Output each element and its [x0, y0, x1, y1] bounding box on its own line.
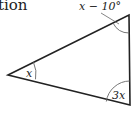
label-leader-line [101, 13, 119, 24]
angle-arc-left [34, 62, 37, 79]
angle-label-left: x [26, 67, 33, 80]
triangle-diagram: x − 10° x 3x [0, 0, 140, 125]
angle-label-top-right: x − 10° [79, 0, 121, 13]
angle-label-bottom-right: 3x [112, 89, 126, 102]
angle-arc-top-right [113, 23, 129, 33]
